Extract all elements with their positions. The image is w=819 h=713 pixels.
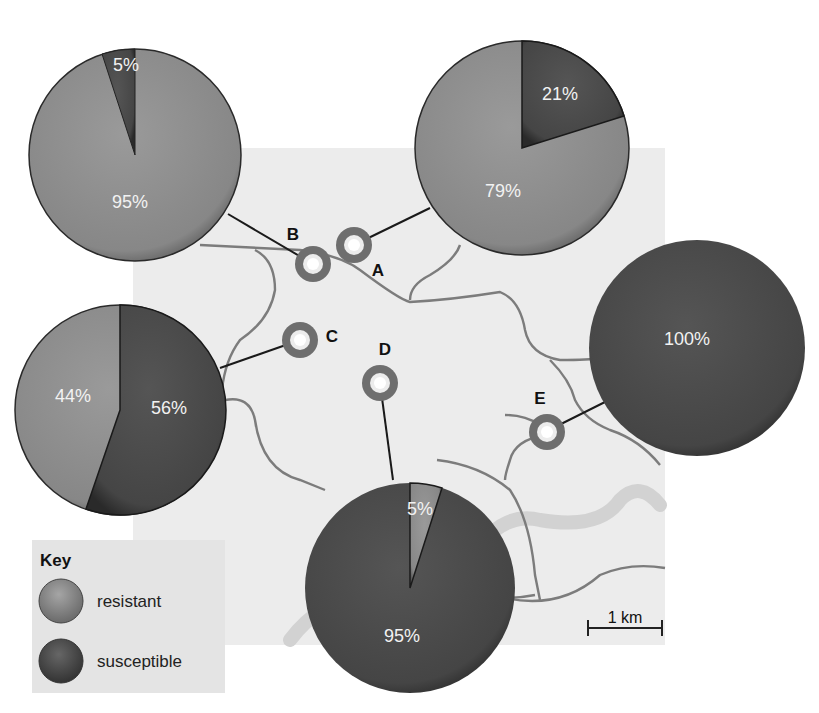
- pie-chart-a: 21% 79%: [415, 41, 629, 255]
- site-marker-b[interactable]: [295, 246, 331, 282]
- scale-bar-label: 1 km: [608, 609, 643, 626]
- site-marker-e[interactable]: [529, 414, 565, 450]
- site-marker-c[interactable]: [282, 322, 318, 358]
- site-label-d: D: [379, 340, 391, 359]
- site-marker-a[interactable]: [336, 227, 372, 263]
- pie-b-resistant-pct: 95%: [112, 192, 148, 212]
- site-label-c: C: [326, 327, 338, 346]
- pie-b-susceptible-pct: 5%: [113, 55, 139, 75]
- pie-chart-d: 5% 95%: [305, 483, 515, 693]
- resistance-map: A B C D E 5% 95% 21% 79% 44% 56% 100% 5%…: [0, 0, 819, 713]
- pie-chart-b: 5% 95%: [29, 49, 241, 261]
- legend-swatch-susceptible: [39, 639, 83, 683]
- pie-chart-c: 44% 56%: [15, 305, 226, 515]
- pie-c-resistant-pct: 44%: [55, 386, 91, 406]
- pie-a-susceptible-pct: 21%: [542, 84, 578, 104]
- pie-e-susceptible-pct: 100%: [664, 329, 710, 349]
- site-marker-d[interactable]: [362, 365, 398, 401]
- pie-a-resistant-pct: 79%: [485, 181, 521, 201]
- pie-c-susceptible-pct: 56%: [151, 398, 187, 418]
- legend: Key resistant susceptible: [32, 540, 225, 693]
- site-label-b: B: [287, 225, 299, 244]
- legend-label-resistant: resistant: [97, 592, 162, 611]
- site-label-e: E: [534, 389, 545, 408]
- legend-swatch-resistant: [39, 579, 83, 623]
- legend-label-susceptible: susceptible: [97, 652, 182, 671]
- legend-title: Key: [40, 551, 72, 570]
- site-label-a: A: [372, 261, 384, 280]
- pie-chart-e: 100%: [589, 240, 805, 456]
- pie-d-resistant-pct: 5%: [407, 499, 433, 519]
- pie-d-susceptible-pct: 95%: [384, 626, 420, 646]
